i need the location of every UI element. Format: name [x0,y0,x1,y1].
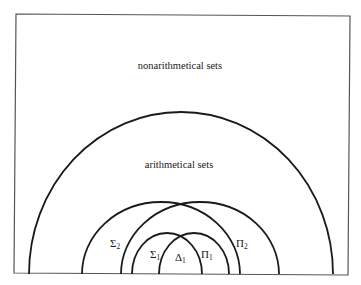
sigma1-label: Σ1 [150,248,160,262]
delta1-subscript: 1 [182,256,186,265]
arithmetical-sets-label: arithmetical sets [145,159,214,170]
sigma2-subscript: 2 [116,242,120,251]
sigma1-boundary [132,233,202,274]
nonarithmetical-sets-label: nonarithmetical sets [138,60,222,71]
delta1-symbol: Δ [175,251,182,263]
arithmetical-sets-boundary [29,112,333,274]
arithmetical-hierarchy-diagram: nonarithmetical sets arithmetical sets Σ… [0,0,361,285]
delta1-label: Δ1 [175,251,186,265]
pi1-symbol: Π [201,248,209,260]
pi1-subscript: 1 [209,253,213,262]
sigma1-subscript: 1 [156,253,160,262]
pi2-subscript: 2 [244,242,248,251]
sigma2-label: Σ2 [110,237,120,251]
pi2-symbol: Π [236,237,244,249]
pi2-label: Π2 [236,237,248,251]
pi1-boundary [159,233,229,274]
pi1-label: Π1 [201,248,213,262]
